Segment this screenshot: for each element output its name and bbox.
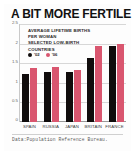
- legend-item-06[interactable]: '06: [46, 52, 58, 57]
- xlabel-britain: BRITAIN: [84, 124, 103, 130]
- bar-japan-02[interactable]: [66, 72, 73, 122]
- bar-russia-06[interactable]: [52, 67, 59, 122]
- ytick-label-1: 1: [16, 79, 18, 84]
- bar-japan-06[interactable]: [74, 70, 81, 122]
- bar-france-02[interactable]: [109, 46, 116, 122]
- ytick-label-1-5: 1.5: [12, 59, 18, 64]
- xlabel-russia: RUSSIA: [41, 124, 60, 130]
- bar-britain-06[interactable]: [95, 46, 102, 122]
- source-note: Data:Population Reference Bureau.: [12, 137, 108, 143]
- legend-swatch-icon-06: [46, 53, 50, 57]
- ytick-label-0: 0: [16, 117, 18, 122]
- ytick-label-0-5: 0.5: [12, 98, 18, 103]
- page-title: A BIT MORE FERTILE: [11, 8, 131, 20]
- bar-spain-06[interactable]: [30, 68, 37, 122]
- legend-item-02[interactable]: '02: [28, 52, 40, 57]
- ytick-label-2-5: 2.5: [12, 20, 18, 25]
- legend-swatch-icon-02: [28, 53, 32, 57]
- legend-label-06: '06: [52, 52, 58, 57]
- xlabel-japan: JAPAN: [63, 124, 82, 130]
- xlabel-france: FRANCE: [105, 124, 124, 130]
- bar-group-france: [109, 24, 124, 122]
- xlabel-spain: SPAIN: [20, 124, 39, 130]
- chart-subtitle: AVERAGE LIFETIME BIRTHS PER WOMAN SELECT…: [28, 28, 90, 53]
- chart-legend: '02 '06: [28, 52, 57, 57]
- chart-inner: A BIT MORE FERTILE 2.5 2 1.5 1 0.5 0: [4, 4, 131, 151]
- x-axis-labels: SPAIN RUSSIA JAPAN BRITAIN FRANCE: [19, 124, 125, 130]
- bar-france-06[interactable]: [117, 44, 124, 122]
- bar-russia-02[interactable]: [44, 72, 51, 122]
- chart-card: A BIT MORE FERTILE 2.5 2 1.5 1 0.5 0: [0, 0, 135, 154]
- bar-spain-02[interactable]: [22, 74, 29, 123]
- bar-britain-02[interactable]: [87, 58, 94, 122]
- legend-label-02: '02: [34, 52, 40, 57]
- source-divider: [12, 134, 123, 135]
- ytick-label-2: 2: [16, 40, 18, 45]
